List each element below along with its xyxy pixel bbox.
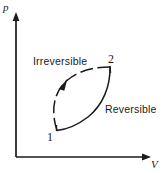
reversible-path (57, 67, 110, 131)
pv-diagram-figure: p V Irreversible Reversible 1 2 (0, 0, 165, 173)
y-axis-arrowhead (13, 12, 20, 21)
diagram-canvas (0, 0, 165, 173)
y-axis-label: p (3, 2, 9, 13)
reversible-curve-label: Reversible (105, 104, 157, 115)
y-axis (13, 12, 20, 157)
x-axis (16, 154, 151, 161)
state-2-label: 2 (108, 53, 114, 65)
x-axis-arrowhead (142, 154, 151, 161)
irreversible-direction-arrowhead (59, 79, 68, 91)
state-1-label: 1 (47, 131, 53, 143)
irreversible-curve-label: Irreversible (33, 56, 87, 67)
x-axis-label: V (151, 159, 158, 170)
